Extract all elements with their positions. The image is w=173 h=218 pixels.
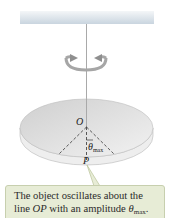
caption-callout: The object oscillates about the line OP … bbox=[5, 185, 165, 218]
callout-pointer bbox=[87, 165, 100, 186]
caption-line-2: line OP with an amplitude θmax. bbox=[14, 202, 159, 218]
caption-line-1: The object oscillates about the bbox=[14, 189, 159, 202]
label-o: O bbox=[76, 116, 83, 127]
label-p: P bbox=[82, 155, 89, 166]
ceiling-support bbox=[20, 11, 154, 24]
